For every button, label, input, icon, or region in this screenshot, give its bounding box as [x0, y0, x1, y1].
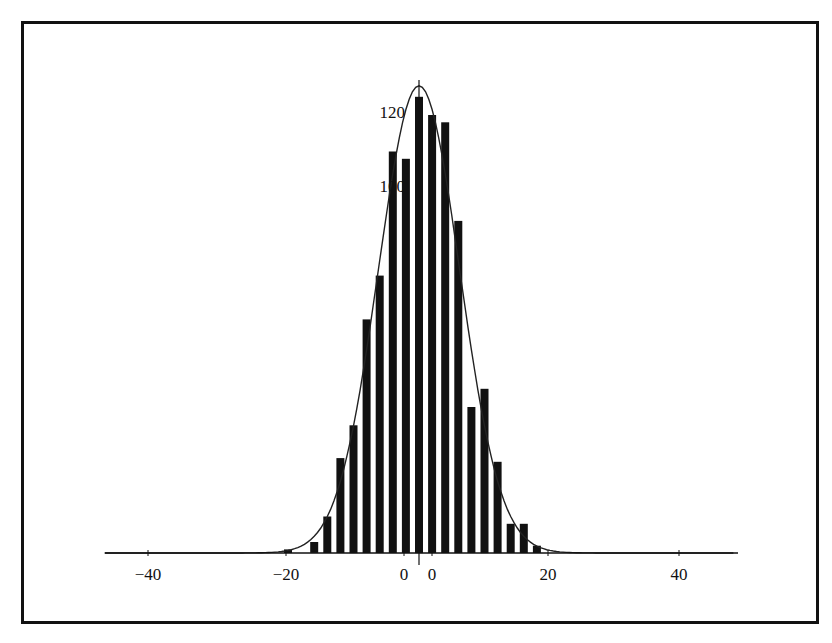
- x-tick-label: 0: [400, 565, 409, 584]
- histogram-bar: [467, 407, 475, 553]
- histogram-chart: −40−20002040 120100: [0, 0, 832, 643]
- histogram-bar: [310, 542, 318, 553]
- histogram-bar: [363, 319, 371, 553]
- histogram-bar: [389, 152, 397, 554]
- x-tick-labels: −40−20002040: [135, 550, 688, 584]
- x-tick-label: 40: [671, 565, 688, 584]
- histogram-bar: [454, 221, 462, 553]
- histogram-bar: [428, 115, 436, 553]
- y-tick-label: 120: [380, 103, 406, 122]
- histogram-bar: [494, 462, 502, 553]
- histogram-bar: [507, 524, 515, 553]
- x-tick-label: −20: [273, 565, 300, 584]
- x-tick-label: 20: [540, 565, 557, 584]
- x-tick-label: −40: [135, 565, 162, 584]
- x-tick-label: 0: [428, 565, 437, 584]
- y-tick-label: 100: [380, 177, 406, 196]
- histogram-bar: [402, 159, 410, 553]
- histogram-bar: [350, 425, 358, 553]
- y-tick-labels: 120100: [380, 103, 406, 196]
- histogram-bar: [376, 276, 384, 553]
- histogram-bars: [284, 97, 541, 553]
